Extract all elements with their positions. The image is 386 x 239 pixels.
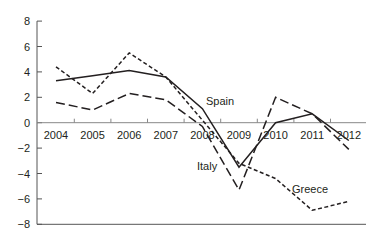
y-tick-label: −2 <box>17 142 30 154</box>
x-tick-label: 2006 <box>117 129 141 141</box>
label-italy: Italy <box>197 160 218 172</box>
label-greece: Greece <box>292 183 328 195</box>
series-labels: SpainItalyGreece <box>197 95 328 195</box>
y-tick-label: 8 <box>24 15 30 27</box>
label-spain: Spain <box>206 95 234 107</box>
x-axis: 200420052006200720082009201020112012 <box>37 119 366 141</box>
x-tick-label: 2004 <box>44 129 68 141</box>
x-tick-label: 2011 <box>300 129 324 141</box>
x-tick-label: 2008 <box>190 129 214 141</box>
x-tick-label: 2009 <box>227 129 251 141</box>
y-tick-label: 4 <box>24 66 30 78</box>
y-tick-label: −8 <box>17 218 30 230</box>
y-tick-label: 0 <box>24 117 30 129</box>
line-chart: 86420−2−4−6−8 20042005200620072008200920… <box>0 0 386 239</box>
y-tick-label: −4 <box>17 168 30 180</box>
x-tick-label: 2005 <box>80 129 104 141</box>
x-tick-label: 2007 <box>154 129 178 141</box>
y-tick-label: 2 <box>24 91 30 103</box>
x-tick-label: 2010 <box>263 129 287 141</box>
y-tick-label: 6 <box>24 41 30 53</box>
y-tick-label: −6 <box>17 193 30 205</box>
series-line-spain <box>56 71 349 168</box>
